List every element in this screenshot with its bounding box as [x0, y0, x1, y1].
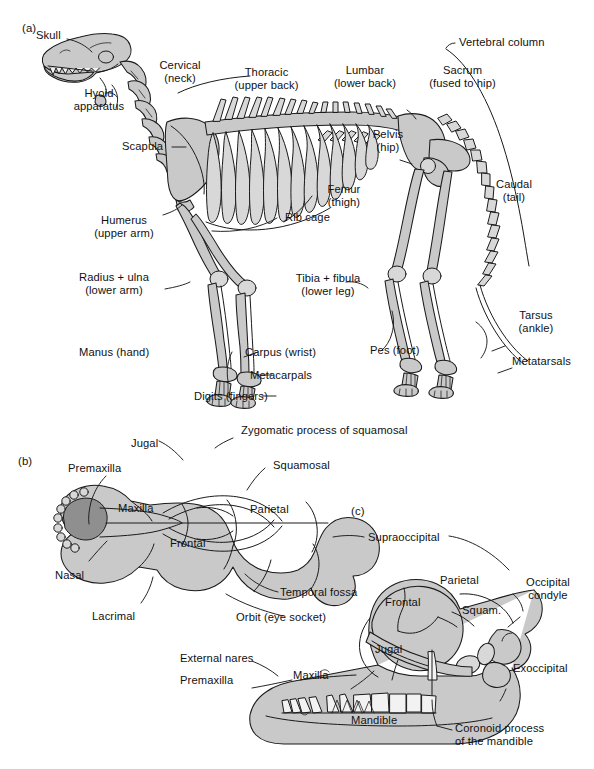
label-b-parietal: Parietal — [250, 503, 289, 516]
label-radius-ulna: Radius + ulna (lower arm) — [60, 271, 168, 297]
label-c-jugal: Jugal — [375, 643, 402, 656]
label-cervical: Cervical (neck) — [141, 59, 219, 85]
label-hyoid-apparatus: Hyoid apparatus — [59, 87, 139, 113]
label-b-maxilla: Maxilla — [118, 502, 154, 515]
label-pelvis: Pelvis (hip) — [360, 128, 416, 154]
label-c-exoccipital: Exoccipital — [513, 662, 568, 675]
label-lumbar: Lumbar (lower back) — [318, 64, 412, 90]
label-vertebral-column: Vertebral column — [459, 36, 545, 49]
label-c-squam: Squam. — [462, 604, 501, 617]
label-rib-cage: Rib cage — [285, 211, 330, 224]
label-b-frontal: Frontal — [170, 537, 206, 550]
label-b-temporal-fossa: Temporal fossa — [280, 586, 357, 599]
panel-b-tag: (b) — [18, 455, 32, 468]
label-digits: Digits (fingers) — [194, 390, 268, 403]
label-femur: Femur (thigh) — [315, 183, 373, 209]
label-b-squamosal: Squamosal — [273, 459, 330, 472]
label-b-nasal: Nasal — [55, 569, 84, 582]
label-c-external-nares: External nares — [180, 652, 254, 665]
label-c-supraoccipital: Supraoccipital — [368, 531, 440, 544]
label-metatarsals: Metatarsals — [512, 355, 571, 368]
label-tarsus: Tarsus (ankle) — [505, 309, 567, 335]
anatomy-figure: (a) Skull Hyoid apparatus Scapula Cervic… — [0, 0, 594, 769]
label-c-premaxilla: Premaxilla — [180, 674, 233, 687]
panel-c-tag: (c) — [351, 505, 365, 518]
label-skull: Skull — [36, 29, 61, 42]
label-b-jugal: Jugal — [131, 437, 158, 450]
label-c-parietal: Parietal — [440, 574, 479, 587]
label-c-mandible: Mandible — [351, 714, 397, 727]
label-tibia-fibula: Tibia + fibula (lower leg) — [274, 272, 382, 298]
label-b-zygomatic-process: Zygomatic process of squamosal — [241, 424, 408, 437]
label-caudal: Caudal (tail) — [485, 178, 543, 204]
hindlimb-far — [420, 171, 457, 398]
label-c-maxilla: Maxilla — [293, 669, 329, 682]
label-scapula: Scapula — [122, 140, 163, 153]
label-sacrum: Sacrum (fused to hip) — [411, 64, 514, 90]
label-manus: Manus (hand) — [79, 346, 149, 359]
label-b-premaxilla: Premaxilla — [68, 462, 121, 475]
panel-a-tag: (a) — [22, 22, 36, 35]
label-humerus: Humerus (upper arm) — [78, 214, 170, 240]
label-b-orbit: Orbit (eye socket) — [236, 611, 326, 624]
label-carpus: Carpus (wrist) — [245, 346, 316, 359]
label-c-occipital-condyle: Occipital condyle — [511, 576, 585, 602]
label-c-frontal: Frontal — [385, 596, 421, 609]
label-thoracic: Thoracic (upper back) — [219, 66, 314, 92]
figure-artwork — [0, 0, 594, 769]
label-c-coronoid-process: Coronoid process of the mandible — [455, 722, 544, 748]
hindlimb-near — [385, 169, 424, 396]
label-metacarpals: Metacarpals — [250, 369, 312, 382]
label-b-lacrimal: Lacrimal — [92, 610, 135, 623]
label-pes: Pes (foot) — [370, 344, 420, 357]
